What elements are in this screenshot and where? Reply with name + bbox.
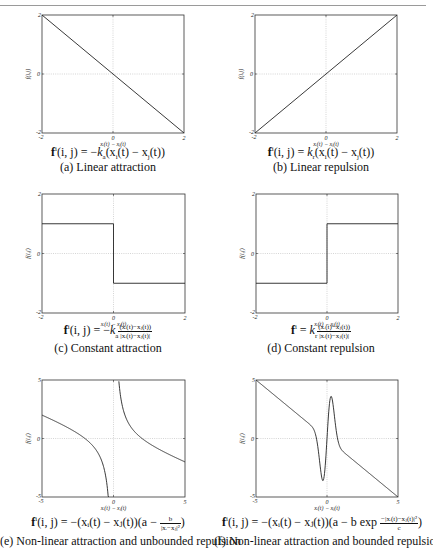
x-tick-min: -5 [39, 498, 44, 504]
fraction: b|xᵢ−xⱼ|² [160, 515, 181, 532]
x-tick-max: 2 [184, 315, 187, 321]
formula-f: fi(i, j) = −(xᵢ(t) − xⱼ(t))(a − b exp −|… [214, 515, 430, 532]
fraction: (xᵢ(t)−xⱼ(t))|xᵢ(t)−xⱼ(t)| [317, 323, 351, 340]
y-axis-label: f(i,j) [239, 248, 246, 259]
y-axis-label: f(i,j) [25, 69, 32, 80]
y-tick-max: 5 [38, 377, 41, 383]
data-series [256, 224, 398, 284]
fraction: −|xᵢ(t)−xⱼ(t)|²c [380, 515, 418, 532]
panel-nonlinear-bounded: 50-5-505xᵢ(t) − xⱼ(t)f(i,j) fi(i, j) = −… [214, 366, 430, 554]
y-tick-max: 2 [38, 12, 41, 18]
x-tick-max: 2 [183, 135, 186, 141]
panel-linear-repulsion: 20-2-202xᵢ(t) − xⱼ(t)f(i,j) fi(i, j) = k… [213, 0, 429, 180]
y-tick-max: 5 [252, 377, 255, 383]
y-tick-zero: 0 [250, 71, 253, 77]
caption-d: (d) Constant repulsion [213, 341, 429, 356]
x-tick-min: -2 [39, 134, 44, 140]
panel-nonlinear-unbounded: 50-5-505xᵢ(t) − xⱼ(t)f(i,j) fi(i, j) = −… [0, 366, 216, 554]
caption-e: (e) Non-linear attraction and unbounded … [0, 534, 216, 549]
caption-b: (b) Linear repulsion [213, 160, 429, 175]
panel-constant-attraction: 20-2-202xᵢ(t) − xⱼ(t)f(i,j) fi(i, j) = −… [0, 180, 216, 365]
x-axis-label: xᵢ(t) − xⱼ(t) [100, 505, 127, 512]
y-tick-max: 2 [251, 12, 254, 18]
y-tick-zero: 0 [251, 436, 254, 442]
plot-d: 20-2-202xᵢ(t) − xⱼ(t)f(i,j) [213, 180, 429, 325]
formula-c: fi(i, j) = −ka(xᵢ(t)−xⱼ(t))|xᵢ(t)−xⱼ(t)| [0, 323, 216, 340]
x-tick-min: -2 [253, 314, 258, 320]
y-axis-label: f(i,j) [25, 433, 32, 444]
caption-f: (f) Non-linear attraction and bounded re… [214, 534, 430, 549]
x-tick-max: 5 [397, 499, 400, 505]
fraction: (xᵢ(t)−xⱼ(t))|xᵢ(t)−xⱼ(t)| [118, 323, 152, 340]
formula-b: fi(i, j) = kr(xi(t) − xj(t)) [213, 145, 429, 161]
plot-f: 50-5-505xᵢ(t) − xⱼ(t)f(i,j) [214, 366, 430, 511]
x-tick-max: 2 [396, 135, 399, 141]
x-tick-min: -2 [252, 134, 257, 140]
x-axis-label: xᵢ(t) − xⱼ(t) [313, 505, 340, 512]
panel-linear-attraction: 20-2-202xᵢ(t) − xⱼ(t)f(i,j) fi(i, j) = −… [0, 0, 216, 180]
formula-e: fi(i, j) = −(xᵢ(t) − xⱼ(t))(a − b|xᵢ−xⱼ|… [0, 515, 216, 532]
formula-d: fi = kr(xᵢ(t)−xⱼ(t))|xᵢ(t)−xⱼ(t)| [213, 323, 429, 340]
y-tick-zero: 0 [37, 71, 40, 77]
x-tick-min: -5 [253, 498, 258, 504]
y-axis-label: f(i,j) [239, 433, 246, 444]
y-tick-max: 2 [252, 191, 255, 197]
x-tick-max: 5 [184, 499, 187, 505]
x-tick-max: 2 [397, 315, 400, 321]
y-tick-zero: 0 [37, 251, 40, 257]
formula-a: fi(i, j) = −ka(xi(t) − xj(t)) [0, 145, 216, 161]
plot-e: 50-5-505xᵢ(t) − xⱼ(t)f(i,j) [0, 366, 216, 511]
y-axis-label: f(i,j) [25, 248, 32, 259]
panel-constant-repulsion: 20-2-202xᵢ(t) − xⱼ(t)f(i,j) fi = kr(xᵢ(t… [213, 180, 429, 365]
plot-c: 20-2-202xᵢ(t) − xⱼ(t)f(i,j) [0, 180, 216, 325]
caption-c: (c) Constant attraction [0, 341, 216, 356]
y-tick-zero: 0 [37, 436, 40, 442]
y-tick-max: 2 [38, 191, 41, 197]
zero-gridlines [42, 380, 185, 497]
y-axis-label: f(i,j) [238, 69, 245, 80]
plot-b: 20-2-202xᵢ(t) − xⱼ(t)f(i,j) [213, 0, 429, 145]
plot-a: 20-2-202xᵢ(t) − xⱼ(t)f(i,j) [0, 0, 216, 145]
y-tick-zero: 0 [251, 251, 254, 257]
caption-a: (a) Linear attraction [0, 160, 216, 175]
x-tick-min: -2 [39, 314, 44, 320]
